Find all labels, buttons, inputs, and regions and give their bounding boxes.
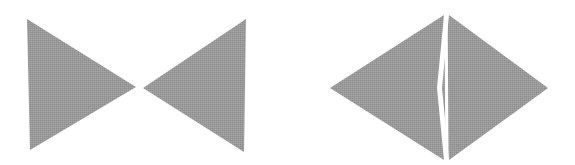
diamond-seam-line (446, 15, 447, 160)
figure-canvas (0, 0, 575, 165)
figure-svg (0, 0, 575, 165)
